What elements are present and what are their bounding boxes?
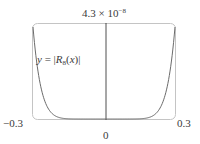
plot-frame bbox=[33, 24, 176, 120]
x-min-label: −0.3 bbox=[3, 118, 23, 129]
y-max-label: 4.3 × 10−8 bbox=[82, 8, 126, 19]
function-label: y = |R8(x)| bbox=[37, 54, 80, 67]
plot-area bbox=[0, 0, 200, 144]
x-max-label: 0.3 bbox=[177, 118, 191, 129]
curve-line bbox=[33, 27, 175, 119]
x-zero-label: 0 bbox=[103, 130, 109, 141]
